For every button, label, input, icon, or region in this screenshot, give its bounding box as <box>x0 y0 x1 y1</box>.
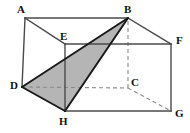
edge-AD <box>22 18 25 87</box>
edge-CG <box>128 88 171 111</box>
vertex-label-B: B <box>124 4 131 15</box>
vertex-label-H: H <box>59 116 68 127</box>
edge-AE <box>25 18 65 44</box>
vertex-label-D: D <box>10 80 18 91</box>
edge-BF <box>128 18 171 44</box>
geometry-figure: A B C D E F G H <box>0 0 190 133</box>
vertex-label-G: G <box>175 108 184 119</box>
vertex-label-E: E <box>60 31 67 42</box>
vertex-label-F: F <box>176 35 183 46</box>
vertex-label-C: C <box>131 77 139 88</box>
prism-diagram <box>0 0 190 133</box>
vertex-label-A: A <box>17 4 25 15</box>
